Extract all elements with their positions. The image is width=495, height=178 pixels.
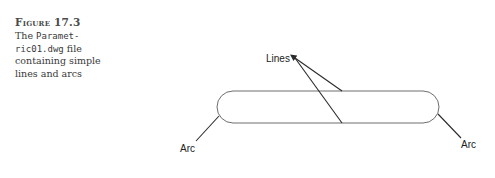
- lines-leader-top: [295, 58, 342, 91]
- arc-right-label: Arc: [461, 139, 476, 150]
- left-arc: [217, 91, 233, 123]
- drawing-canvas: Lines Arc Arc: [0, 0, 495, 178]
- arc-right-leader: [438, 114, 461, 138]
- arc-left-label: Arc: [180, 143, 195, 154]
- leader-lines: [196, 58, 461, 141]
- slot-shape: [217, 91, 439, 123]
- arc-left-leader: [196, 116, 219, 141]
- right-arc: [423, 91, 439, 123]
- lines-label: Lines: [266, 53, 290, 64]
